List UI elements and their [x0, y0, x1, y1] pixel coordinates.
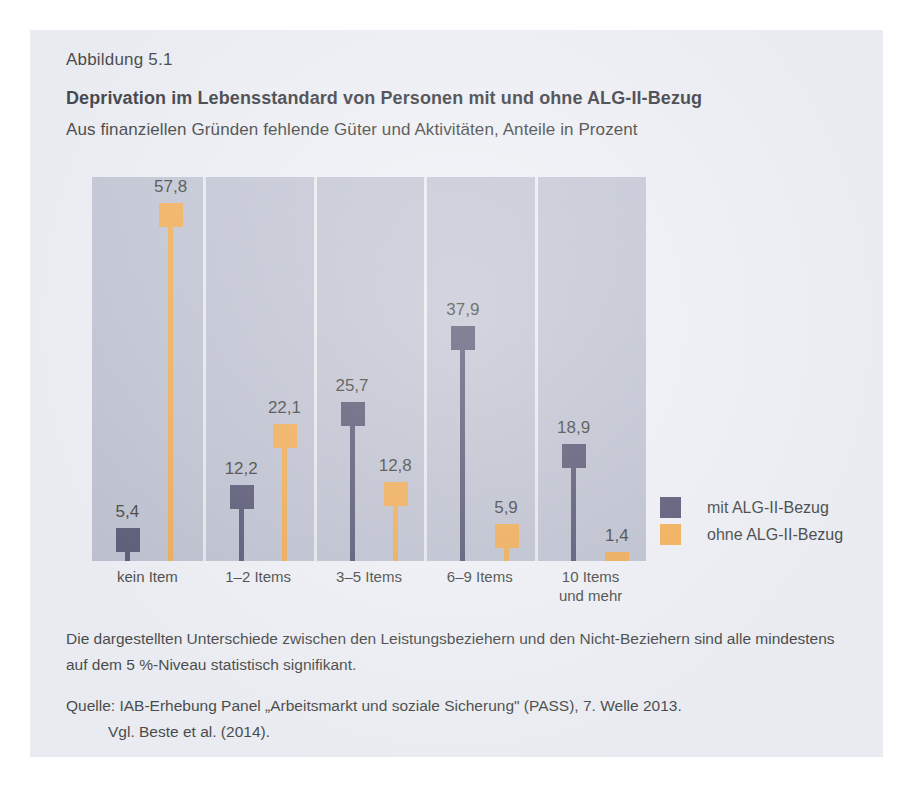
chart-xaxis-label-1: kein Item — [92, 567, 203, 586]
bar-value-label: 18,9 — [557, 418, 590, 438]
chart-xaxis-label-2: 1–2 Items — [203, 567, 314, 586]
chart-note: Die dargestellten Unterschiede zwischen … — [66, 626, 846, 678]
bar-head — [451, 326, 475, 350]
legend-swatch-ohne — [660, 524, 681, 545]
source-line-2: Vgl. Beste et al. (2014). — [66, 719, 856, 745]
bar-value-label: 37,9 — [446, 300, 479, 320]
chart-bar-ohne-alg-ii-bezug-5: 1,4 — [611, 552, 622, 561]
bar-stem — [393, 500, 398, 561]
bar-value-label: 12,8 — [379, 456, 412, 476]
bar-value-label: 22,1 — [268, 398, 301, 418]
chart-bar-ohne-alg-ii-bezug-4: 5,9 — [501, 524, 512, 561]
bar-value-label: 5,4 — [116, 502, 140, 522]
figure-number: Abbildung 5.1 — [66, 50, 173, 70]
figure-panel: Abbildung 5.1 Deprivation im Lebensstand… — [30, 30, 883, 757]
chart-group-4: 37,95,9 — [424, 177, 535, 561]
chart-xaxis-label-5: 10 Items und mehr — [535, 567, 646, 605]
bar-stem — [282, 442, 287, 561]
bar-head — [230, 485, 254, 509]
bar-head — [605, 552, 629, 561]
bar-head — [159, 203, 183, 227]
chart-legend: mit ALG-II-Bezugohne ALG-II-Bezug — [660, 494, 843, 548]
legend-item-1[interactable]: mit ALG-II-Bezug — [660, 494, 843, 521]
bar-value-label: 5,9 — [494, 498, 518, 518]
bar-head — [495, 524, 519, 548]
bar-stem — [168, 221, 173, 561]
chart-bar-mit-alg-ii-bezug-5: 18,9 — [568, 444, 579, 561]
chart-bar-mit-alg-ii-bezug-2: 12,2 — [236, 485, 247, 561]
chart-bar-ohne-alg-ii-bezug-3: 12,8 — [390, 482, 401, 561]
legend-swatch-mit — [660, 497, 681, 518]
source-line-1: Quelle: IAB-Erhebung Panel „Arbeitsmarkt… — [66, 697, 682, 714]
chart-bar-ohne-alg-ii-bezug-1: 57,8 — [165, 203, 176, 561]
bar-stem — [350, 420, 355, 561]
bar-value-label: 25,7 — [335, 376, 368, 396]
legend-item-2[interactable]: ohne ALG-II-Bezug — [660, 521, 843, 548]
bar-head — [116, 528, 140, 552]
chart-group-3: 25,712,8 — [314, 177, 425, 561]
bar-value-label: 57,8 — [154, 177, 187, 197]
legend-item-label: ohne ALG-II-Bezug — [707, 526, 843, 544]
chart-xaxis-label-4: 6–9 Items — [424, 567, 535, 586]
legend-item-label: mit ALG-II-Bezug — [707, 499, 829, 517]
bar-value-label: 12,2 — [225, 459, 258, 479]
bar-stem — [239, 503, 244, 561]
bar-value-label: 1,4 — [605, 526, 629, 546]
bar-head — [384, 482, 408, 506]
bar-head — [341, 402, 365, 426]
chart-group-2: 12,222,1 — [203, 177, 314, 561]
chart-bar-mit-alg-ii-bezug-4: 37,9 — [457, 326, 468, 561]
chart-group-5: 18,91,4 — [535, 177, 646, 561]
chart-subtitle: Aus finanziellen Gründen fehlende Güter … — [66, 120, 638, 140]
chart-plot-area: 5,457,812,222,125,712,837,95,918,91,4 — [92, 177, 646, 561]
bar-stem — [571, 462, 576, 561]
chart-bar-ohne-alg-ii-bezug-2: 22,1 — [279, 424, 290, 561]
chart-xaxis-label-3: 3–5 Items — [314, 567, 425, 586]
chart-bar-mit-alg-ii-bezug-3: 25,7 — [347, 402, 358, 561]
chart-title: Deprivation im Lebensstandard von Person… — [66, 88, 702, 109]
bar-stem — [460, 344, 465, 561]
bar-head — [273, 424, 297, 448]
bar-head — [562, 444, 586, 468]
chart-group-1: 5,457,8 — [92, 177, 203, 561]
chart-source: Quelle: IAB-Erhebung Panel „Arbeitsmarkt… — [66, 693, 856, 745]
chart-bar-mit-alg-ii-bezug-1: 5,4 — [122, 528, 133, 561]
